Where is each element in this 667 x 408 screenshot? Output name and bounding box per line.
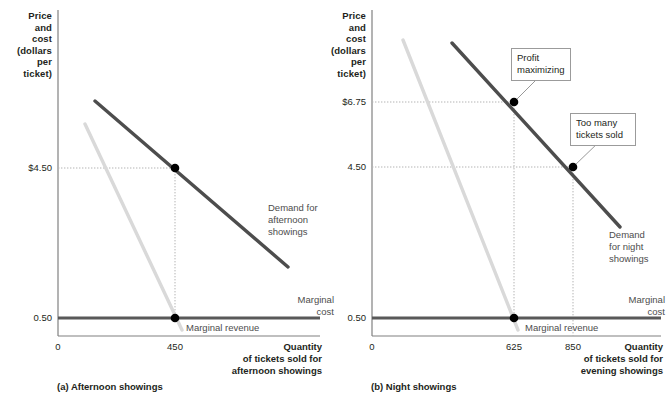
demand-curve-a [95,101,288,267]
marginal-revenue-label-b: Marginal revenue [525,322,598,333]
marginal-revenue-label-a: Marginal revenue [186,322,259,333]
x-axis-label-b: Quantity of tickets sold for evening sho… [501,341,663,376]
panel-b-caption: (b) Night showings [371,381,457,392]
too-many-tickets-point-b [569,163,578,172]
marginal-revenue-curve-b [403,40,518,330]
mr-mc-point-b [510,314,519,323]
demand-curve-label-b: Demand for night showings [609,229,667,264]
mr-mc-point-a [171,314,180,323]
panel-afternoon-showings: Price and cost (dollars per ticket) $4.5… [0,0,334,408]
panel-a-caption: (a) Afternoon showings [57,381,163,392]
y-tick-050-a: 0.50 [0,312,52,323]
x-tick-0-b: 0 [360,341,384,352]
marginal-cost-label-b: Marginal cost [607,294,665,318]
y-axis-label-b: Price and cost (dollars per ticket) [316,10,366,80]
y-axis-label-a: Price and cost (dollars per ticket) [2,10,52,80]
panel-night-showings: Price and cost (dollars per ticket) $6.7… [313,0,647,408]
profit-maximizing-callout-b: Profit maximizing [511,48,571,81]
price-point-a [171,164,180,173]
y-tick-450-a: $4.50 [0,162,52,173]
x-axis-label-a: Quantity of tickets sold for afternoon s… [160,341,322,376]
y-tick-450-b: 4.50 [312,161,366,172]
x-tick-0-a: 0 [46,341,70,352]
y-tick-050-b: 0.50 [312,312,366,323]
y-tick-675-b: $6.75 [312,96,366,107]
marginal-revenue-curve-a [85,124,182,330]
too-many-tickets-callout-b: Too many tickets sold [570,113,636,146]
economics-figure: Price and cost (dollars per ticket) $4.5… [0,0,667,408]
profit-maximizing-point-b [510,98,519,107]
